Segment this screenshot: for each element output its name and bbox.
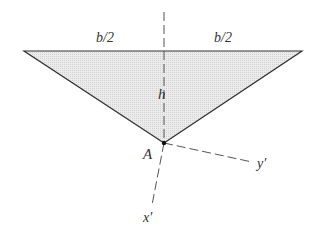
label-vertex-a: A [142, 146, 153, 162]
y-prime-axis [164, 143, 252, 162]
label-y-prime: y′ [255, 156, 267, 171]
vertex-a-point [162, 141, 166, 145]
label-half-base-left: b/2 [96, 30, 114, 45]
triangle-diagram: b/2 b/2 h A y′ x′ [0, 0, 320, 228]
label-height: h [158, 86, 166, 102]
x-prime-axis [152, 143, 164, 205]
label-x-prime: x′ [142, 210, 153, 225]
label-half-base-right: b/2 [214, 30, 232, 45]
